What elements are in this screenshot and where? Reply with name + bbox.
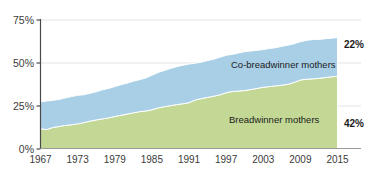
x-tick-label-1973: 1973 (67, 154, 90, 165)
x-tick-label-2015: 2015 (326, 154, 349, 165)
x-tick-label-1997: 1997 (215, 154, 238, 165)
x-axis-tick-labels: 196719731979198519911997200320092015 (29, 154, 349, 165)
y-tick-label-75%: 75% (13, 14, 34, 26)
x-tick-label-1967: 1967 (29, 154, 52, 165)
x-tick-label-1985: 1985 (141, 154, 164, 165)
x-tick-label-1979: 1979 (104, 154, 127, 165)
stacked-area-chart: 0%25%50%75% 1967197319791985199119972003… (0, 0, 376, 178)
y-tick-label-25%: 25% (13, 100, 34, 112)
x-tick-label-1991: 1991 (178, 154, 201, 165)
series-label-breadwinner-mothers: Breadwinner mothers (229, 114, 320, 125)
y-tick-label-0%: 0% (19, 143, 34, 155)
x-tick-label-2003: 2003 (252, 154, 275, 165)
y-tick-label-50%: 50% (13, 57, 34, 69)
chart-canvas: 0%25%50%75% 1967197319791985199119972003… (0, 0, 376, 178)
end-value-label-breadwinner: 42% (344, 118, 364, 129)
series-label-co-breadwinner-mothers: Co-breadwinner mothers (231, 59, 336, 70)
x-tick-label-2009: 2009 (289, 154, 312, 165)
end-value-label-co-breadwinner: 22% (344, 39, 364, 50)
